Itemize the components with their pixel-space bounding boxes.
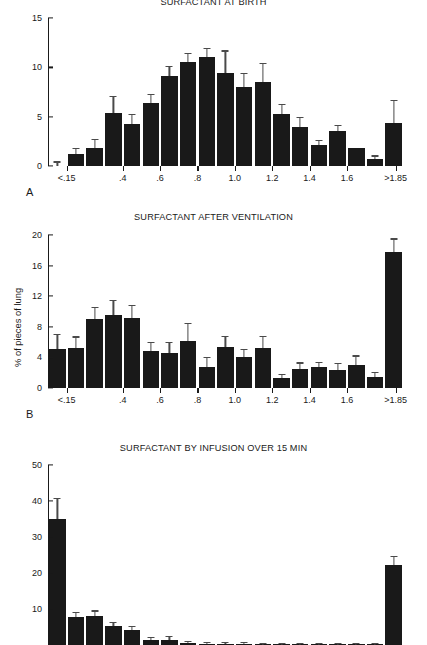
bar	[292, 127, 308, 166]
error-bar-cap	[297, 643, 304, 644]
x-tick-label: 1.0	[229, 395, 242, 405]
x-tick-mark	[310, 388, 311, 393]
y-tick-label: 50	[32, 460, 48, 470]
bar	[255, 348, 271, 388]
panel-a: SURFACTANT AT BIRTH 051015<.15.4.6.81.01…	[0, 0, 427, 207]
x-tick-mark	[67, 388, 68, 393]
y-tick-label: 0	[37, 161, 48, 171]
error-bar-cap	[185, 53, 192, 54]
error-bar	[393, 240, 394, 252]
y-tick-label: 0	[37, 383, 48, 393]
error-bar-cap	[371, 155, 378, 156]
y-tick-mark	[48, 165, 53, 166]
bar	[105, 113, 121, 166]
bar	[68, 154, 84, 166]
error-bar-cap	[278, 104, 285, 105]
bar-group	[161, 465, 177, 645]
x-tick-label: .8	[194, 173, 202, 183]
error-bar-cap	[166, 636, 173, 637]
y-tick-label: 40	[32, 496, 48, 506]
panel-c-bars	[48, 465, 403, 645]
error-bar	[225, 337, 226, 348]
error-bar	[94, 308, 95, 319]
bar-group	[236, 465, 252, 645]
y-tick-mark	[48, 500, 53, 501]
bar-group	[161, 235, 177, 388]
error-bar-cap	[73, 148, 80, 149]
bar-group	[385, 18, 401, 166]
bar	[199, 57, 215, 166]
bar-group	[68, 18, 84, 166]
error-bar	[244, 74, 245, 87]
error-bar	[94, 612, 95, 617]
bar-group	[199, 465, 215, 645]
bar	[236, 357, 252, 388]
bar-group	[367, 465, 383, 645]
bar	[180, 341, 196, 388]
error-bar	[113, 301, 114, 316]
x-tick-mark	[310, 166, 311, 171]
x-tick-mark	[160, 166, 161, 171]
bar-group	[329, 465, 345, 645]
bar	[236, 87, 252, 166]
error-bar	[169, 343, 170, 353]
error-bar-cap	[203, 642, 210, 643]
error-bar	[188, 642, 189, 643]
bar-group	[105, 18, 121, 166]
bar	[273, 378, 289, 388]
error-bar	[150, 343, 151, 351]
error-bar-cap	[147, 94, 154, 95]
error-bar	[131, 115, 132, 123]
bar-group	[86, 465, 102, 645]
x-tick-mark	[235, 388, 236, 393]
bar-group	[311, 235, 327, 388]
y-tick-mark	[48, 234, 53, 235]
y-tick-mark	[48, 326, 53, 327]
error-bar-cap	[241, 73, 248, 74]
panel-a-plot: 051015<.15.4.6.81.01.21.41.6>1.85	[48, 18, 403, 166]
bar-group	[105, 465, 121, 645]
bar	[49, 349, 65, 388]
error-bar-cap	[222, 336, 229, 337]
error-bar	[188, 54, 189, 62]
bar	[68, 617, 84, 645]
error-bar-cap	[334, 643, 341, 644]
error-bar-cap	[110, 622, 117, 623]
bar	[311, 145, 327, 166]
bar	[124, 124, 140, 166]
error-bar	[262, 64, 263, 82]
error-bar-cap	[203, 357, 210, 358]
x-tick-label: .4	[119, 173, 127, 183]
panel-a-title: SURFACTANT AT BIRTH	[0, 0, 427, 7]
bar	[273, 114, 289, 166]
error-bar-cap	[315, 362, 322, 363]
bar	[124, 318, 140, 388]
x-tick-label: .6	[156, 173, 164, 183]
bar-group	[49, 465, 65, 645]
bar-group	[292, 18, 308, 166]
error-bar	[225, 643, 226, 644]
error-bar	[206, 643, 207, 644]
bar-group	[180, 18, 196, 166]
error-bar	[262, 337, 263, 348]
x-tick-label: .4	[119, 395, 127, 405]
error-bar-cap	[73, 336, 80, 337]
error-bar-cap	[278, 643, 285, 644]
bar	[68, 348, 84, 388]
panel-b-plot: 048121620<.15.4.6.81.01.21.41.6>1.85	[48, 235, 403, 388]
bar	[385, 252, 401, 388]
error-bar	[75, 149, 76, 154]
error-bar	[318, 363, 319, 367]
error-bar	[337, 126, 338, 131]
bar	[329, 370, 345, 388]
y-tick-label: 12	[32, 291, 48, 301]
error-bar-cap	[129, 114, 136, 115]
bar-group	[255, 18, 271, 166]
y-tick-mark	[48, 17, 53, 18]
bar	[143, 640, 159, 645]
error-bar	[281, 375, 282, 378]
x-tick-mark	[272, 388, 273, 393]
y-tick-label: 20	[32, 568, 48, 578]
error-bar-cap	[147, 637, 154, 638]
x-tick-mark	[197, 388, 198, 393]
